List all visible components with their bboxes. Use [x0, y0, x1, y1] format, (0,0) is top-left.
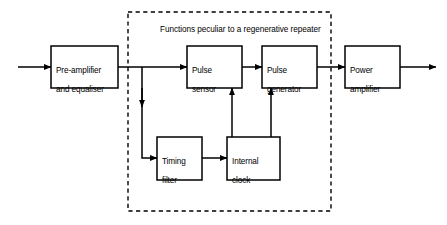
pulse-sensor-label-line1: Pulse: [192, 66, 212, 75]
timing-filter-label: Timing filter: [162, 147, 186, 185]
regenerative-repeater-group-caption: Functions peculiar to a regenerative rep…: [160, 25, 321, 35]
internal-clock-label-line1: Internal: [232, 157, 259, 166]
power-amplifier-label: Power amplifier: [350, 56, 380, 94]
pulse-sensor-label-line2: sensor: [192, 85, 216, 94]
pulse-sensor-label: Pulse sensor: [192, 56, 216, 94]
regenerative-repeater-group-border: [128, 12, 331, 211]
internal-clock-label-line2: clock: [232, 176, 250, 185]
power-amplifier-label-line1: Power: [350, 66, 373, 75]
internal-clock-label: Internal clock: [232, 147, 259, 185]
line-pre-amplifier-to-timing-filter: [142, 67, 157, 158]
pulse-generator-label-line2: generator: [267, 85, 301, 94]
timing-filter-label-line1: Timing: [162, 157, 186, 166]
figure-canvas: Functions peculiar to a regenerative rep…: [0, 0, 447, 225]
pulse-generator-label: Pulse generator: [267, 56, 301, 94]
pre-amplifier-label-line2: and equaliser: [56, 85, 104, 94]
pulse-generator-label-line1: Pulse: [267, 66, 287, 75]
pre-amplifier-label-line1: Pre-amplifier: [56, 66, 101, 75]
pre-amplifier-label: Pre-amplifier and equaliser: [56, 56, 104, 94]
timing-filter-label-line2: filter: [162, 176, 177, 185]
power-amplifier-label-line2: amplifier: [350, 85, 380, 94]
